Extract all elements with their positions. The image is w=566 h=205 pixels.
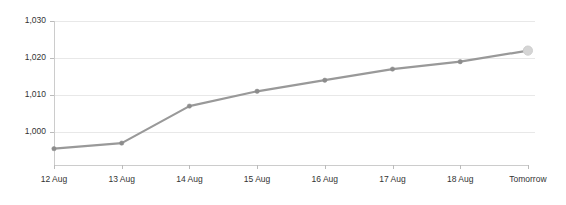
x-tick-label: Tomorrow <box>509 174 547 184</box>
x-tick-labels: 12 Aug13 Aug14 Aug15 Aug16 Aug17 Aug18 A… <box>41 174 548 184</box>
x-axis <box>54 165 528 169</box>
x-tick-label: 14 Aug <box>176 174 203 184</box>
chart-canvas: 1,0001,0101,0201,030 12 Aug13 Aug14 Aug1… <box>0 0 566 205</box>
y-tick-labels: 1,0001,0101,0201,030 <box>25 15 47 136</box>
data-point[interactable] <box>458 60 462 64</box>
x-tick-label: 16 Aug <box>312 174 339 184</box>
y-tick-label: 1,030 <box>25 15 47 25</box>
data-point[interactable] <box>323 78 327 82</box>
x-tick-label: 15 Aug <box>244 174 271 184</box>
data-point[interactable] <box>187 104 191 108</box>
forecast-data-point[interactable] <box>523 46 532 55</box>
y-tick-label: 1,000 <box>25 126 47 136</box>
line-chart: 1,0001,0101,0201,030 12 Aug13 Aug14 Aug1… <box>0 0 566 205</box>
data-point[interactable] <box>120 141 124 145</box>
series-polyline <box>54 51 528 149</box>
series-line <box>54 51 528 149</box>
grid-lines <box>54 22 535 133</box>
data-point[interactable] <box>52 146 56 150</box>
x-tick-label: 13 Aug <box>108 174 135 184</box>
data-markers[interactable] <box>52 46 533 151</box>
x-tick-label: 17 Aug <box>379 174 406 184</box>
y-tick-label: 1,010 <box>25 89 47 99</box>
x-tick-label: 12 Aug <box>41 174 68 184</box>
y-tick-label: 1,020 <box>25 52 47 62</box>
x-tick-label: 18 Aug <box>447 174 474 184</box>
data-point[interactable] <box>390 67 394 71</box>
y-axis <box>50 21 55 165</box>
data-point[interactable] <box>255 89 259 93</box>
